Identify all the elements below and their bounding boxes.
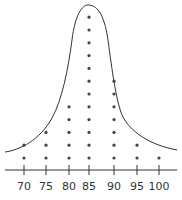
- data-dot: [87, 92, 90, 95]
- data-dot: [112, 144, 115, 147]
- data-dot: [112, 105, 115, 108]
- x-tick-label: 70: [17, 180, 31, 193]
- data-dot: [87, 54, 90, 57]
- data-dot: [87, 156, 90, 159]
- data-dot: [22, 156, 25, 159]
- data-dot: [157, 156, 160, 159]
- data-dot: [67, 131, 70, 134]
- data-dot: [67, 105, 70, 108]
- data-dot: [87, 144, 90, 147]
- data-dot: [67, 118, 70, 121]
- x-axis-labels: 707580859095100: [17, 180, 170, 193]
- data-dot: [87, 67, 90, 70]
- x-tick-label: 75: [39, 180, 53, 193]
- data-dot: [22, 144, 25, 147]
- data-dot: [112, 118, 115, 121]
- data-dot: [44, 131, 47, 134]
- data-dot: [87, 118, 90, 121]
- data-dot: [112, 80, 115, 83]
- data-dot: [44, 156, 47, 159]
- x-tick-label: 90: [107, 180, 121, 193]
- dot-plot-chart: 707580859095100: [0, 0, 182, 200]
- x-tick-label: 95: [130, 180, 144, 193]
- data-dot: [87, 80, 90, 83]
- x-tick-label: 80: [62, 180, 76, 193]
- distribution-curve: [5, 5, 177, 152]
- data-dot: [44, 144, 47, 147]
- data-dot: [87, 16, 90, 19]
- data-dot: [67, 144, 70, 147]
- data-dot: [135, 144, 138, 147]
- data-dot: [112, 92, 115, 95]
- x-tick-label: 85: [82, 180, 96, 193]
- data-dot: [87, 41, 90, 44]
- data-dot: [87, 131, 90, 134]
- data-dot: [112, 131, 115, 134]
- data-dot: [112, 156, 115, 159]
- data-dot: [87, 28, 90, 31]
- data-dot: [67, 156, 70, 159]
- data-dot: [87, 105, 90, 108]
- x-tick-label: 100: [149, 180, 170, 193]
- data-dot: [135, 156, 138, 159]
- data-dots: [22, 16, 160, 160]
